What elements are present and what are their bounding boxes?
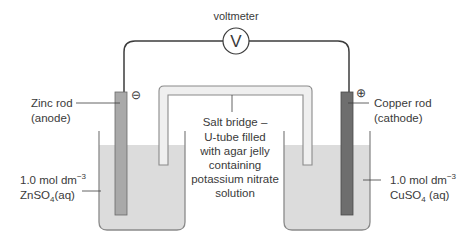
negative-terminal-icon: ⊖ — [131, 88, 141, 102]
svg-text:containing: containing — [209, 159, 261, 171]
left-solution — [99, 145, 185, 230]
svg-text:potassium nitrate: potassium nitrate — [191, 173, 279, 185]
znso4-formula: ZnSO4(aq) — [20, 189, 75, 204]
voltmeter-label: voltmeter — [213, 10, 259, 22]
svg-text:with agar jelly: with agar jelly — [199, 145, 270, 157]
cuso4-concentration: 1.0 mol dm−3 — [390, 172, 457, 186]
right-beaker — [284, 131, 370, 230]
svg-text:U-tube filled: U-tube filled — [204, 131, 265, 143]
zinc-rod-role: (anode) — [31, 112, 71, 124]
znso4-concentration: 1.0 mol dm−3 — [20, 172, 87, 186]
copper-rod-label: Copper rod — [374, 97, 432, 109]
zinc-rod — [115, 92, 127, 215]
positive-terminal-icon: ⊕ — [356, 86, 366, 100]
svg-text:solution: solution — [215, 187, 255, 199]
cuso4-formula: CuSO4 (aq) — [390, 189, 450, 204]
circuit-wire-left — [124, 41, 223, 92]
svg-text:Salt bridge –: Salt bridge – — [203, 116, 268, 128]
left-beaker — [99, 131, 185, 230]
right-solution — [284, 145, 370, 230]
voltmeter: V — [223, 28, 249, 54]
copper-rod-role: (cathode) — [374, 112, 423, 124]
electrochemical-cell-diagram: V voltmeter ⊖ ⊕ Zinc rod (anode) Copper … — [0, 0, 475, 238]
circuit-wire-right — [249, 41, 349, 92]
copper-rod — [341, 92, 353, 215]
voltmeter-symbol: V — [230, 32, 242, 51]
zinc-rod-label: Zinc rod — [31, 97, 73, 109]
salt-bridge-label: Salt bridge – U-tube filled with agar je… — [191, 116, 279, 199]
